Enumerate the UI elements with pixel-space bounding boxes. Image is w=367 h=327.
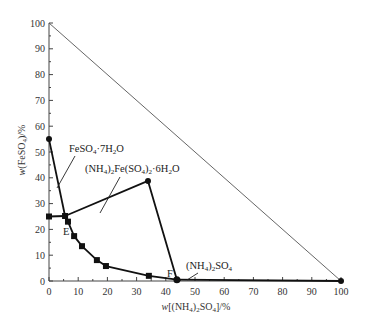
data-point-marker [94, 257, 100, 263]
data-point-marker [46, 214, 52, 220]
data-point-marker [65, 219, 71, 225]
y-tick-label: 100 [30, 18, 45, 29]
annotation-feso4-7h2o: FeSO4·7H2O [69, 143, 124, 156]
y-tick-label: 10 [35, 250, 45, 261]
data-point-marker [173, 276, 180, 283]
data-point-marker [79, 243, 85, 249]
x-tick-label: 40 [161, 286, 171, 297]
y-axis-title: w(FeSO4)/% [16, 125, 29, 176]
point-label-e: E [63, 226, 69, 237]
data-point-marker [103, 263, 109, 269]
x-tick-label: 60 [219, 286, 229, 297]
data-point-marker [71, 233, 77, 239]
x-tick-label: 70 [248, 286, 258, 297]
data-point-marker [146, 273, 152, 279]
x-tick-label: 10 [73, 286, 83, 297]
x-tick-label: 0 [47, 286, 52, 297]
y-tick-label: 90 [35, 43, 45, 54]
annotation-double-salt: (NH4)2Fe(SO4)2·6H2O [85, 163, 180, 176]
x-tick-label: 90 [307, 286, 317, 297]
y-tick-label: 80 [35, 69, 45, 80]
x-tick-label: 80 [278, 286, 288, 297]
data-point-marker [338, 278, 344, 284]
y-tick-label: 60 [35, 121, 45, 132]
y-tick-label: 70 [35, 95, 45, 106]
y-tick-label: 50 [35, 147, 45, 158]
y-tick-label: 30 [35, 198, 45, 209]
y-tick-label: 20 [35, 224, 45, 235]
leader-feso4-7h2o [57, 156, 75, 188]
y-tick-label: 0 [40, 276, 45, 287]
data-point-marker [145, 178, 151, 184]
x-tick-label: 30 [132, 286, 142, 297]
phase-diagram-chart: 0102030405060708090100010203040506070809… [0, 0, 367, 327]
x-tick-label: 50 [190, 286, 200, 297]
x-tick-label: 100 [334, 286, 349, 297]
x-axis-title: w[(NH4)2SO4]/% [162, 301, 231, 314]
point-label-f: F [167, 268, 173, 279]
annotation-ammonium-sulfate: (NH4)2SO4 [186, 260, 233, 273]
leader-double-salt [100, 177, 120, 213]
x-tick-label: 20 [102, 286, 112, 297]
data-point-marker [46, 136, 52, 142]
axes: 0102030405060708090100010203040506070809… [30, 18, 349, 298]
data-point-marker [62, 213, 68, 219]
y-tick-label: 40 [35, 172, 45, 183]
